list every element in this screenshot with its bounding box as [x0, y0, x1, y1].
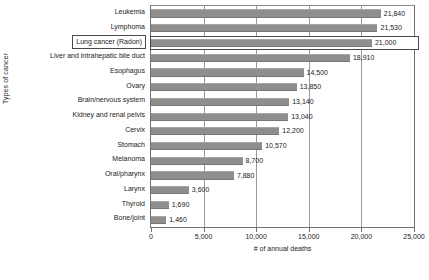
bar-value-label: 12,200	[282, 125, 303, 136]
category-label: Esophagus	[110, 64, 145, 79]
category-label: Brain/nervous system	[78, 93, 145, 108]
bar[interactable]	[151, 39, 372, 47]
bar[interactable]	[151, 54, 350, 62]
plot-area: 21,84021,53021,00018,91014,50013,85013,1…	[150, 5, 415, 228]
category-axis-labels: LeukemiaLymphomaLung cancer (Radon)Liver…	[0, 5, 148, 228]
bar[interactable]	[151, 83, 297, 91]
bar-row: 21,840	[151, 6, 414, 21]
bar[interactable]	[151, 201, 169, 209]
bar-row: 12,200	[151, 124, 414, 139]
category-label: Lung cancer (Radon)	[72, 35, 146, 49]
bar-row: 13,140	[151, 94, 414, 109]
bar-row: 3,600	[151, 183, 414, 198]
bar[interactable]	[151, 98, 289, 106]
bar-value-label: 13,040	[291, 111, 312, 122]
bar-row: 8,700	[151, 153, 414, 168]
bar-row: 13,040	[151, 109, 414, 124]
bar[interactable]	[151, 24, 377, 32]
x-axis-tick-label: 20,000	[351, 233, 372, 240]
bar-value-label: 3,600	[192, 184, 210, 195]
bar[interactable]	[151, 68, 304, 76]
bar-value-label: 13,850	[300, 81, 321, 92]
bar-value-label: 8,700	[246, 155, 264, 166]
x-axis-tick	[414, 228, 415, 232]
bar[interactable]	[151, 113, 288, 121]
x-axis-tick-label: 0	[149, 233, 153, 240]
category-label: Melanoma	[112, 152, 145, 167]
bar[interactable]	[151, 9, 381, 17]
x-axis-tick	[361, 228, 362, 232]
bar[interactable]	[151, 171, 234, 179]
bars-group: 21,84021,53021,00018,91014,50013,85013,1…	[151, 6, 414, 227]
category-label: Larynx	[124, 182, 145, 197]
bar-row: 1,690	[151, 198, 414, 213]
bar-row: 21,000	[151, 35, 414, 50]
bar-row: 1,460	[151, 212, 414, 227]
bar-value-label: 10,570	[265, 140, 286, 151]
x-axis-title: # of annual deaths	[150, 245, 415, 252]
category-label: Oral/pharynx	[105, 167, 145, 182]
category-label: Stomach	[117, 138, 145, 153]
bar-value-label: 7,880	[237, 170, 255, 181]
bar[interactable]	[151, 127, 279, 135]
x-axis-tick	[309, 228, 310, 232]
bar-value-label: 21,530	[380, 22, 401, 33]
bar-row: 10,570	[151, 139, 414, 154]
category-label: Liver and intrahepatic bile duct	[50, 49, 145, 64]
bar-row: 18,910	[151, 50, 414, 65]
bar-value-label: 14,500	[307, 67, 328, 78]
bar[interactable]	[151, 216, 166, 224]
x-axis-tick	[151, 228, 152, 232]
bar-row: 21,530	[151, 21, 414, 36]
x-axis-tick	[204, 228, 205, 232]
bar-value-label: 1,460	[169, 214, 187, 225]
bar-value-label: 1,690	[172, 199, 190, 210]
bar-value-label: 21,840	[384, 8, 405, 19]
bar[interactable]	[151, 186, 189, 194]
bar-row: 14,500	[151, 65, 414, 80]
bar[interactable]	[151, 157, 243, 165]
bar-row: 13,850	[151, 80, 414, 95]
figure-container: Types of cancer LeukemiaLymphomaLung can…	[0, 0, 429, 280]
bar-value-label: 13,140	[292, 96, 313, 107]
x-axis-tick-label: 5,000	[195, 233, 213, 240]
bar-row: 7,880	[151, 168, 414, 183]
category-label: Leukemia	[115, 5, 145, 20]
category-label: Lymphoma	[111, 20, 145, 35]
bar-value-label: 18,910	[353, 52, 374, 63]
x-axis-tick-label: 10,000	[245, 233, 266, 240]
x-axis-tick	[256, 228, 257, 232]
bar-value-label: 21,000	[375, 37, 396, 48]
x-axis-tick-label: 15,000	[298, 233, 319, 240]
category-label: Cervix	[125, 123, 145, 138]
category-label: Bone/joint	[114, 211, 145, 226]
category-label: Kidney and renal pelvis	[73, 108, 145, 123]
category-label: Ovary	[126, 79, 145, 94]
category-label: Thyroid	[122, 197, 145, 212]
x-axis-tick-label: 25,000	[403, 233, 424, 240]
bar[interactable]	[151, 142, 262, 150]
